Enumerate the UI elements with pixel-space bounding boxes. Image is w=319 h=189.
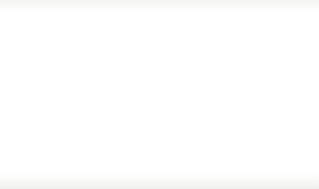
bar-under60	[178, 123, 193, 145]
bar-group	[82, 21, 120, 145]
y-tick-mark	[68, 145, 74, 146]
y-tick-label: 800	[45, 39, 65, 52]
bar-total	[124, 36, 139, 145]
bar-group	[122, 21, 160, 145]
bar-group	[162, 21, 200, 145]
bar-total	[204, 25, 219, 145]
x-axis-line	[73, 145, 236, 146]
legend-swatch	[244, 57, 255, 68]
chart-figure: Population (millions) 02004006008001000 …	[0, 0, 319, 189]
chart-legend: Total<60	[240, 52, 293, 86]
y-tick-label: 0	[58, 138, 65, 151]
y-tick-label: 1000	[38, 14, 65, 27]
plot-area	[74, 21, 234, 145]
y-axis-title: Population (millions)	[21, 0, 34, 104]
bar-under60	[218, 117, 233, 145]
bar-total	[84, 40, 99, 145]
bar-under60	[98, 127, 113, 145]
bar-total	[164, 30, 179, 145]
bar-under60	[138, 124, 153, 145]
legend-label: <60	[259, 72, 282, 83]
y-tick-label: 200	[45, 113, 65, 126]
legend-item: <60	[244, 71, 292, 84]
x-tick-label: 2025	[198, 149, 244, 162]
legend-item: Total	[244, 56, 292, 69]
legend-swatch	[244, 72, 255, 83]
y-tick-label: 600	[45, 64, 65, 77]
bar-group	[202, 21, 240, 145]
legend-label: Total	[259, 57, 285, 68]
y-tick-label: 400	[45, 88, 65, 101]
